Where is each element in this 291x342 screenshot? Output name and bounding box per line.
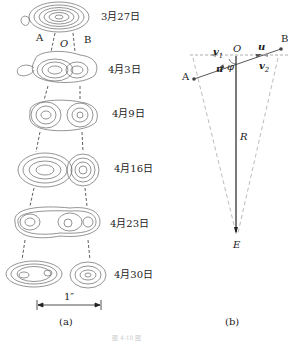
contour-apr23 [15,207,100,238]
contour-mar27 [21,2,89,32]
footer-text: 图 4-18 图 [112,333,141,342]
point-label-b-a: A [182,72,189,82]
point-label-b-o: O [233,44,241,54]
contour-apr9 [30,100,98,131]
date-label-apr3: 4月3日 [108,65,141,75]
vector-u-right-label: u [258,42,265,52]
caption-b: (b) [225,316,239,327]
caption-a: (a) [59,316,73,327]
point-label-o: O [60,39,68,49]
date-label-mar27: 3月27日 [101,12,140,22]
contour-apr30 [6,261,106,288]
date-label-apr23: 4月23日 [110,219,149,229]
point-label-b: B [84,35,91,45]
vector-u-left-label: u [216,64,223,74]
point-label-a: A [36,33,43,43]
date-label-apr16: 4月16日 [114,164,153,174]
angle-phi-label: φ [227,62,234,72]
date-label-apr30: 4月30日 [114,270,153,280]
scale-bar-label: 1″ [64,292,74,302]
vector-v1-label: v1 [213,47,223,60]
contour-apr3 [17,51,97,82]
radius-r-label: R [240,132,248,142]
contour-apr16 [18,153,99,187]
point-label-b-b: B [281,34,288,44]
date-label-apr9: 4月9日 [112,109,145,119]
vector-v2-label: v2 [259,61,269,74]
point-label-e: E [233,240,240,250]
